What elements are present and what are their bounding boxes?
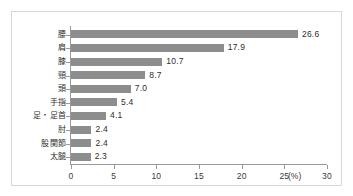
x-axis-tick-label: 0 xyxy=(69,171,74,181)
y-axis-tick xyxy=(66,130,70,131)
x-axis-tick xyxy=(156,165,157,169)
y-axis-tick xyxy=(66,144,70,145)
category-label: 腰 xyxy=(58,30,66,39)
bar xyxy=(71,112,106,120)
x-axis-tick-label: 30 xyxy=(322,171,332,181)
x-axis-tick xyxy=(71,165,72,169)
y-axis-tick xyxy=(66,48,70,49)
x-axis-tick xyxy=(327,165,328,169)
y-axis-tick xyxy=(66,116,70,117)
category-label: 肘 xyxy=(58,125,66,134)
x-axis-unit-label: (%) xyxy=(288,171,301,181)
category-label: 頭 xyxy=(58,84,66,93)
category-label: 頸 xyxy=(58,71,66,80)
y-axis-tick xyxy=(66,62,70,63)
x-axis-tick-label: 10 xyxy=(151,171,161,181)
y-axis-tick xyxy=(66,76,70,77)
category-label: 太腿 xyxy=(50,152,66,161)
bar-value-label: 7.0 xyxy=(135,84,147,93)
bar-chart-plot-area: 051015202530 (%) 腰肩膝頸頭手指足・足首肘股関節太腿 26.61… xyxy=(12,12,343,187)
bar xyxy=(71,126,91,134)
bar xyxy=(71,139,91,147)
bar-value-label: 17.9 xyxy=(228,43,245,52)
y-axis-tick xyxy=(66,103,70,104)
x-axis-tick xyxy=(242,165,243,169)
x-axis-tick xyxy=(114,165,115,169)
bar-value-label: 10.7 xyxy=(166,57,183,66)
bar-value-label: 2.3 xyxy=(95,152,107,161)
bar xyxy=(71,98,117,106)
bar xyxy=(71,85,131,93)
bar xyxy=(71,58,162,66)
x-axis-tick-label: 20 xyxy=(237,171,247,181)
bar-value-label: 26.6 xyxy=(302,30,319,39)
bar-value-label: 2.4 xyxy=(95,139,107,148)
bar xyxy=(71,153,91,161)
category-label: 足・足首 xyxy=(33,111,66,120)
category-label: 手指 xyxy=(50,98,66,107)
x-axis-tick xyxy=(284,165,285,169)
y-axis-tick xyxy=(66,89,70,90)
x-axis-tick-label: 15 xyxy=(194,171,204,181)
bar-value-label: 2.4 xyxy=(95,125,107,134)
category-label: 肩 xyxy=(58,43,66,52)
bar-value-label: 5.4 xyxy=(121,98,133,107)
bar xyxy=(71,30,298,38)
y-axis-tick xyxy=(66,157,70,158)
category-label: 股関節 xyxy=(41,139,66,148)
x-axis-tick xyxy=(199,165,200,169)
bar xyxy=(71,71,145,79)
bar-value-label: 4.1 xyxy=(110,111,122,120)
y-axis-tick xyxy=(66,35,70,36)
x-axis-tick-label: 5 xyxy=(111,171,116,181)
chart-card: 051015202530 (%) 腰肩膝頸頭手指足・足首肘股関節太腿 26.61… xyxy=(11,11,342,186)
bar xyxy=(71,44,224,52)
category-label: 膝 xyxy=(58,57,66,66)
bar-value-label: 8.7 xyxy=(149,71,161,80)
